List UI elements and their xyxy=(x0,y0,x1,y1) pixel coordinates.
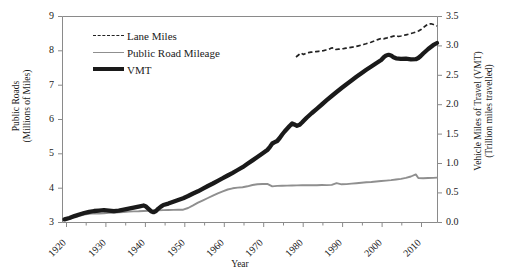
y-axis-left-title: Public Roads (Millions of Miles) xyxy=(11,36,33,176)
legend-item-vmt: VMT xyxy=(92,61,220,78)
dashed-line-icon xyxy=(92,31,125,41)
legend-label-public-road-mileage: Public Road Mileage xyxy=(127,47,220,59)
legend-label-vmt: VMT xyxy=(127,64,151,76)
y-axis-right-tick-0-5: 0.5 xyxy=(446,186,472,197)
y-axis-right-tick-0-0: 0.0 xyxy=(446,216,472,227)
y-axis-right-title-line1: Vehicle Miles of Travel (VMT) xyxy=(473,31,484,191)
y-axis-left-title-line1: Public Roads xyxy=(11,36,22,176)
y-axis-left-tick-9: 9 xyxy=(32,10,54,21)
y-axis-left-tick-4: 4 xyxy=(32,182,54,193)
y-axis-left-tick-7: 7 xyxy=(32,79,54,90)
legend-label-lane-miles: Lane Miles xyxy=(127,30,177,42)
chart-figure: 9 8 7 6 5 4 3 3.5 3.0 2.5 2.0 1.5 1.0 0.… xyxy=(0,0,508,279)
y-axis-right-title-line2: (Trillion miles travelled) xyxy=(484,31,495,191)
y-axis-left-tick-5: 5 xyxy=(32,147,54,158)
thick-black-line-icon xyxy=(92,65,125,75)
y-axis-left-tick-3: 3 xyxy=(32,216,54,227)
y-axis-right-tick-1-0: 1.0 xyxy=(446,157,472,168)
y-axis-left-tick-8: 8 xyxy=(32,44,54,55)
y-axis-left-tick-6: 6 xyxy=(32,113,54,124)
y-axis-right-tick-3-0: 3.0 xyxy=(446,39,472,50)
chart-background xyxy=(0,0,508,279)
y-axis-right-tick-2-0: 2.0 xyxy=(446,98,472,109)
chart-legend: Lane Miles Public Road Mileage VMT xyxy=(92,27,220,78)
y-axis-right-tick-2-5: 2.5 xyxy=(446,69,472,80)
legend-item-public-road-mileage: Public Road Mileage xyxy=(92,44,220,61)
gray-line-icon xyxy=(92,48,125,58)
chart-plot-area xyxy=(0,0,508,279)
y-axis-right-tick-1-5: 1.5 xyxy=(446,128,472,139)
x-axis-title: Year xyxy=(200,259,280,270)
y-axis-right-tick-3-5: 3.5 xyxy=(446,10,472,21)
legend-item-lane-miles: Lane Miles xyxy=(92,27,220,44)
y-axis-right-title: Vehicle Miles of Travel (VMT) (Trillion … xyxy=(473,31,495,191)
y-axis-left-title-line2: (Millions of Miles) xyxy=(22,36,33,176)
